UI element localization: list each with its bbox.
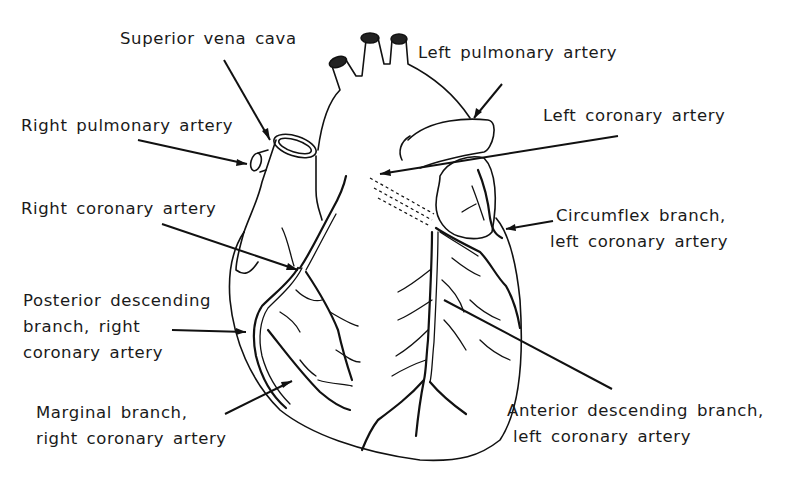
right-pulmonary-artery-vessel xyxy=(249,150,268,172)
label-posterior-descending-branch: Posterior descending branch, right coron… xyxy=(23,288,211,366)
label-left-coronary-artery: Left coronary artery xyxy=(543,105,725,126)
hidden-left-coronary xyxy=(370,178,434,226)
label-right-pulmonary-artery: Right pulmonary artery xyxy=(21,115,233,136)
label-anterior-descending-branch: Anterior descending branch, left coronar… xyxy=(507,398,764,450)
label-circumflex-branch: Circumflex branch, left coronary artery xyxy=(550,203,728,255)
circumflex-vessel xyxy=(436,170,520,360)
superior-vena-cava-vessel xyxy=(244,130,322,232)
label-right-coronary-artery: Right coronary artery xyxy=(21,198,216,219)
label-left-pulmonary-artery: Left pulmonary artery xyxy=(418,42,617,63)
left-pulmonary-artery-vessel xyxy=(400,119,494,168)
label-superior-vena-cava: Superior vena cava xyxy=(120,28,297,49)
anterior-descending-vessel xyxy=(362,232,480,450)
right-coronary-artery-vessel xyxy=(254,176,360,410)
label-marginal-branch: Marginal branch, right coronary artery xyxy=(36,400,227,452)
